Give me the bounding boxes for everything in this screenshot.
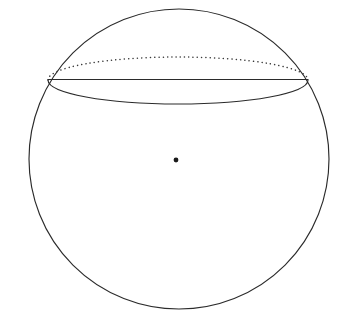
cross-section-front-arc bbox=[48, 80, 308, 104]
sphere-outline-circle bbox=[29, 9, 329, 309]
sphere-center-dot bbox=[174, 158, 179, 163]
sphere-cross-section-diagram bbox=[0, 0, 349, 323]
cross-section-back-arc-dotted bbox=[48, 57, 308, 80]
figure-root bbox=[0, 0, 349, 323]
